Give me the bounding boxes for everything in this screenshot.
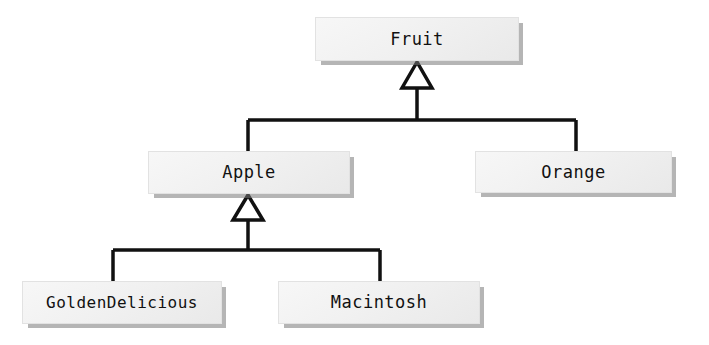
class-box-goldendelicious[interactable]: GoldenDelicious <box>22 281 222 324</box>
class-name-orange: Orange <box>541 164 605 181</box>
generalization-edge-fruit <box>248 62 576 151</box>
class-box-macintosh[interactable]: Macintosh <box>278 281 480 324</box>
inheritance-triangle-fruit <box>402 62 432 88</box>
class-name-macintosh: Macintosh <box>331 294 428 311</box>
class-name-goldendelicious: GoldenDelicious <box>46 295 198 311</box>
class-name-fruit: Fruit <box>390 31 444 48</box>
inheritance-triangle-apple <box>233 195 263 220</box>
generalization-edge-apple <box>113 195 380 281</box>
class-box-orange[interactable]: Orange <box>475 151 672 193</box>
class-box-apple[interactable]: Apple <box>148 151 350 194</box>
class-name-apple: Apple <box>222 164 276 181</box>
class-box-fruit[interactable]: Fruit <box>315 17 519 61</box>
uml-class-diagram: Fruit Apple Orange GoldenDelicious Macin… <box>0 0 709 345</box>
